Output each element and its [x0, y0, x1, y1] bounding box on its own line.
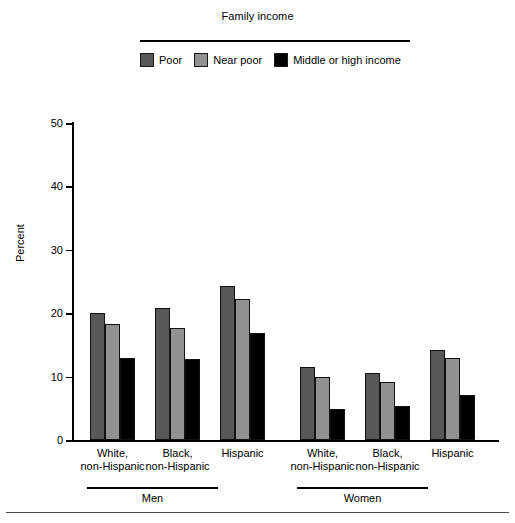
bar — [445, 358, 460, 440]
bar-group — [365, 123, 410, 440]
bar-group — [90, 123, 135, 440]
y-tick-mark — [66, 440, 72, 442]
plot-area: 01020304050 — [72, 123, 499, 440]
legend-label: Near poor — [213, 54, 262, 66]
bar — [170, 328, 185, 440]
legend-item: Middle or high income — [274, 53, 401, 67]
chart-legend: PoorNear poorMiddle or high income — [140, 50, 410, 70]
bar — [430, 350, 445, 440]
y-tick-label: 0 — [57, 434, 63, 446]
bar — [235, 299, 250, 440]
y-tick-mark — [66, 377, 72, 379]
bar-group — [300, 123, 345, 440]
footer-divider — [6, 512, 509, 513]
legend-title: Family income — [0, 10, 515, 22]
y-tick-mark — [66, 250, 72, 252]
legend-item: Poor — [140, 53, 182, 67]
legend-divider — [140, 40, 410, 42]
bar — [250, 333, 265, 440]
bar — [300, 367, 315, 440]
bar — [220, 286, 235, 440]
chart-figure: Family income PoorNear poorMiddle or hig… — [0, 0, 515, 523]
bar — [185, 359, 200, 440]
bar — [315, 377, 330, 440]
y-tick-label: 20 — [51, 307, 63, 319]
bar — [460, 395, 475, 440]
y-tick-label: 10 — [51, 371, 63, 383]
bar — [365, 373, 380, 440]
y-tick-label: 30 — [51, 244, 63, 256]
bar — [155, 308, 170, 440]
bar — [105, 324, 120, 440]
x-category-line: Hispanic — [403, 447, 503, 460]
bar-group — [220, 123, 265, 440]
legend-label: Middle or high income — [293, 54, 401, 66]
supergroup-rule — [297, 487, 428, 489]
x-category-line: non-Hispanic — [338, 460, 438, 473]
y-tick-mark — [66, 123, 72, 125]
legend-label: Poor — [159, 54, 182, 66]
x-axis-line — [72, 440, 499, 442]
legend-swatch-1 — [140, 53, 154, 67]
legend-swatch-2 — [194, 53, 208, 67]
x-category-label: Hispanic — [403, 447, 503, 460]
bar-group — [155, 123, 200, 440]
supergroup-label: Men — [93, 492, 213, 504]
supergroup-label: Women — [303, 492, 423, 504]
bar — [395, 406, 410, 440]
y-tick-label: 50 — [51, 117, 63, 129]
bar — [90, 313, 105, 440]
bar — [380, 382, 395, 440]
legend-item: Near poor — [194, 53, 262, 67]
bar-group — [430, 123, 475, 440]
y-tick-label: 40 — [51, 180, 63, 192]
y-axis-title: Percent — [14, 224, 26, 262]
supergroup-rule — [87, 487, 218, 489]
bar — [120, 358, 135, 440]
x-category-line: non-Hispanic — [128, 460, 228, 473]
y-tick-mark — [66, 186, 72, 188]
legend-swatch-3 — [274, 53, 288, 67]
y-tick-mark — [66, 313, 72, 315]
bar — [330, 409, 345, 440]
